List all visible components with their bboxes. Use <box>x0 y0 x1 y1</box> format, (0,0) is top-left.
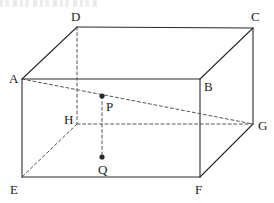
point-marker-p <box>99 93 104 98</box>
vertex-label-a: A <box>9 72 18 85</box>
edge-C-B <box>200 28 253 79</box>
vertex-label-f: F <box>195 183 202 196</box>
edge-H-E <box>22 124 77 177</box>
dashed-constructions-group <box>22 79 253 157</box>
vertex-label-h: H <box>64 113 73 126</box>
point-marker-q <box>99 154 104 159</box>
vertex-label-c: C <box>251 10 260 23</box>
edge-D-C <box>77 27 253 28</box>
point-label-p: P <box>106 100 113 113</box>
edge-F-G <box>200 124 253 177</box>
point-label-q: Q <box>98 163 107 176</box>
vertex-label-b: B <box>204 80 213 93</box>
vertex-label-e: E <box>10 183 18 196</box>
diagonal-A-G <box>22 79 253 124</box>
edge-A-D <box>22 27 77 79</box>
figure-canvas: ABCDEFGHPQ <box>0 0 274 203</box>
vertex-label-d: D <box>71 10 80 23</box>
rectangular-prism-diagram <box>0 0 274 203</box>
vertex-label-g: G <box>258 119 267 132</box>
